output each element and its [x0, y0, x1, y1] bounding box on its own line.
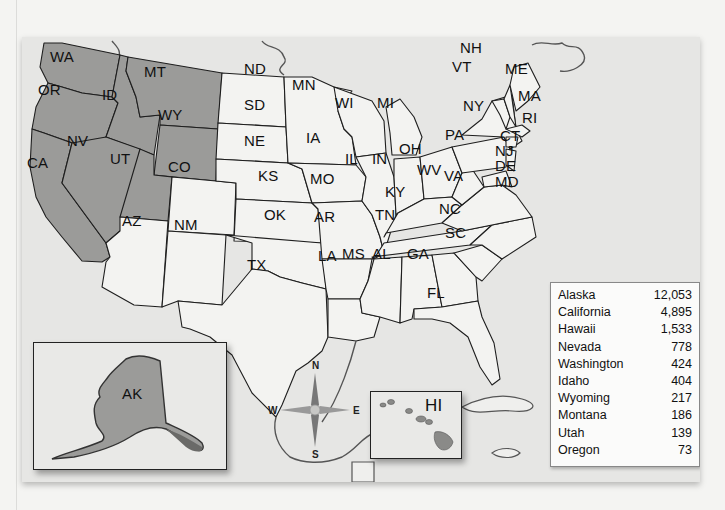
table-row: Utah139: [558, 425, 692, 442]
label-id: ID: [102, 87, 117, 102]
row-value: 186: [671, 407, 692, 424]
label-vt: VT: [452, 59, 472, 74]
state-nm: [162, 231, 226, 307]
label-nc: NC: [439, 201, 461, 216]
label-nm: NM: [174, 217, 198, 232]
label-mo: MO: [310, 171, 335, 186]
label-sc: SC: [445, 225, 466, 240]
label-md: MD: [495, 174, 519, 189]
label-nh: NH: [460, 40, 482, 55]
label-ms: MS: [342, 246, 365, 261]
table-row: Washington424: [558, 356, 692, 373]
label-mn: MN: [292, 77, 316, 92]
row-state: Washington: [558, 356, 624, 373]
label-al: AL: [372, 246, 391, 261]
label-fl: FL: [427, 285, 445, 300]
row-value: 4,895: [661, 304, 692, 321]
label-nv: NV: [67, 133, 88, 148]
compass-west: W: [268, 405, 277, 416]
row-value: 139: [671, 425, 692, 442]
state-fl: [414, 301, 500, 385]
label-va: VA: [444, 168, 463, 183]
coastline: [532, 43, 585, 72]
label-ut: UT: [110, 151, 130, 166]
label-az: AZ: [122, 213, 142, 228]
label-ok: OK: [264, 207, 286, 222]
label-tx: TX: [247, 257, 267, 272]
label-pa: PA: [445, 127, 464, 142]
row-state: California: [558, 304, 611, 321]
label-ny: NY: [463, 98, 484, 113]
table-row: Idaho404: [558, 373, 692, 390]
row-state: Alaska: [558, 287, 596, 304]
label-co: CO: [168, 159, 191, 174]
page-margin-rule: [16, 0, 17, 510]
row-state: Wyoming: [558, 390, 610, 407]
label-ia: IA: [306, 130, 321, 145]
compass-rose-icon: N S W E: [260, 355, 370, 465]
label-wy: WY: [158, 107, 183, 122]
label-ca: CA: [27, 155, 48, 170]
jamaica-outline: [492, 449, 520, 458]
label-ks: KS: [258, 168, 278, 183]
hawaii-shape: [371, 392, 461, 458]
compass-north: N: [312, 360, 319, 371]
hawaii-inset: HI: [370, 391, 462, 459]
table-row: California4,895: [558, 304, 692, 321]
label-me: ME: [505, 61, 528, 76]
label-mi: MI: [377, 95, 394, 110]
table-row: Alaska12,053: [558, 287, 692, 304]
compass-east: E: [353, 405, 360, 416]
label-de: DE: [495, 158, 516, 173]
label-mt: MT: [144, 64, 166, 79]
row-value: 73: [678, 442, 692, 459]
label-nj: NJ: [495, 143, 514, 158]
state-values-table: Alaska12,053 California4,895 Hawaii1,533…: [550, 282, 700, 467]
alaska-inset: AK: [33, 342, 227, 470]
compass-south: S: [312, 449, 319, 460]
row-value: 12,053: [654, 287, 692, 304]
label-or: OR: [38, 82, 61, 97]
table-row: Wyoming217: [558, 390, 692, 407]
label-wa: WA: [50, 49, 74, 64]
table-row: Oregon73: [558, 442, 692, 459]
label-ak: AK: [122, 386, 142, 401]
label-ma: MA: [518, 88, 541, 103]
row-value: 404: [671, 373, 692, 390]
label-nd: ND: [244, 61, 266, 76]
row-state: Utah: [558, 425, 584, 442]
row-state: Hawaii: [558, 321, 596, 338]
label-sd: SD: [244, 97, 265, 112]
label-ct: CT: [500, 128, 520, 143]
table-row: Hawaii1,533: [558, 321, 692, 338]
row-state: Nevada: [558, 339, 601, 356]
alaska-shape: [34, 343, 226, 469]
row-state: Montana: [558, 407, 607, 424]
label-ne: NE: [244, 133, 265, 148]
label-ga: GA: [407, 246, 429, 261]
table-row: Montana186: [558, 407, 692, 424]
label-la: LA: [318, 248, 337, 263]
row-value: 778: [671, 339, 692, 356]
row-state: Idaho: [558, 373, 589, 390]
cuba-outline: [462, 396, 533, 412]
label-ky: KY: [385, 184, 405, 199]
label-oh: OH: [399, 141, 422, 156]
label-tn: TN: [375, 207, 395, 222]
label-wi: WI: [335, 95, 354, 110]
row-value: 217: [671, 390, 692, 407]
label-ar: AR: [314, 209, 335, 224]
label-hi: HI: [425, 397, 442, 414]
row-state: Oregon: [558, 442, 600, 459]
label-wv: WV: [417, 162, 442, 177]
label-il: IL: [345, 151, 358, 166]
table-row: Nevada778: [558, 339, 692, 356]
row-value: 1,533: [661, 321, 692, 338]
label-ri: RI: [522, 110, 537, 125]
label-in: IN: [372, 151, 387, 166]
us-map-panel: WA OR CA ID NV MT WY UT CO AZ NM ND SD N…: [22, 37, 700, 482]
row-value: 424: [671, 356, 692, 373]
